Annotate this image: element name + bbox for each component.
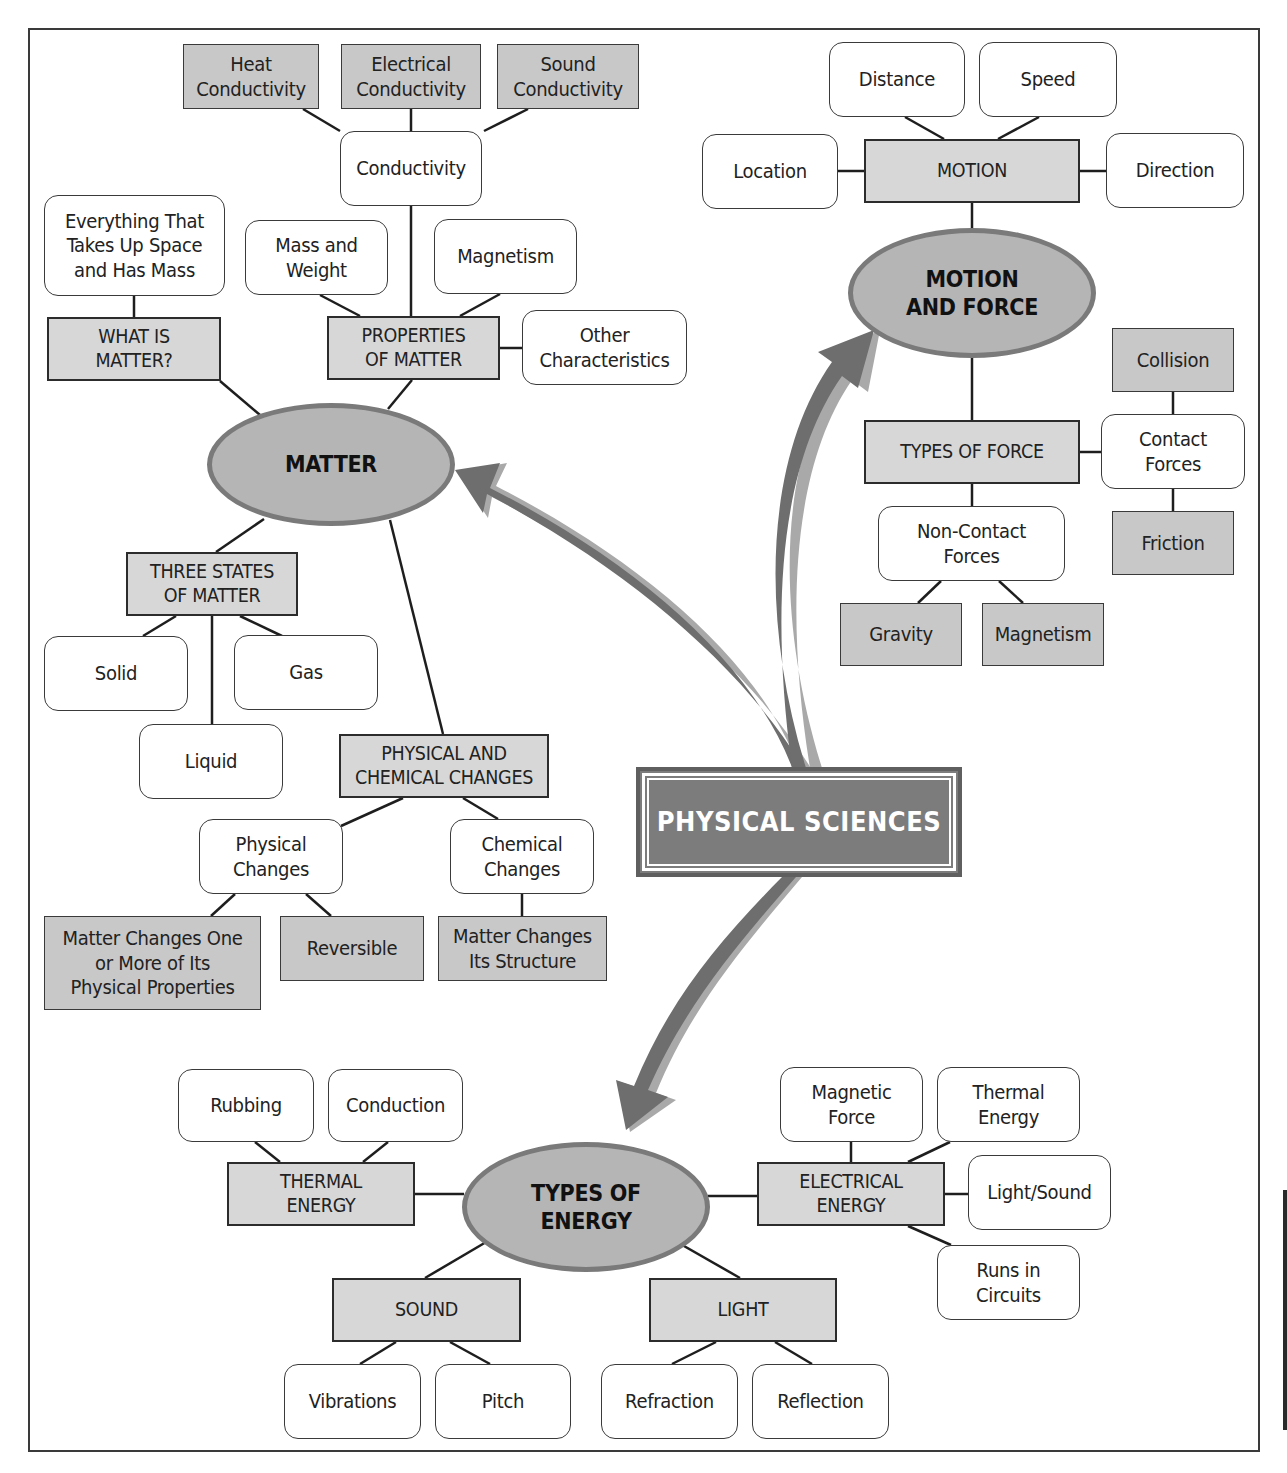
node-rubbing: Rubbing — [178, 1069, 314, 1142]
topic-types-of-energy: TYPES OF ENERGY — [462, 1142, 710, 1272]
connector-line — [775, 1342, 812, 1364]
node-physical-changes: Physical Changes — [199, 819, 343, 894]
connector-line — [303, 109, 340, 131]
node-light-sound: Light/Sound — [968, 1155, 1111, 1230]
connector-line — [999, 581, 1023, 603]
connector-line — [905, 117, 944, 139]
connector-line — [240, 616, 282, 636]
node-vibrations: Vibrations — [284, 1364, 421, 1439]
node-speed: Speed — [979, 42, 1117, 117]
category-sound: SOUND — [332, 1278, 521, 1342]
connector-line — [463, 798, 498, 819]
arrow-to-matter — [458, 463, 812, 770]
node-distance: Distance — [829, 42, 965, 117]
arrow-to-motion-force — [790, 330, 880, 768]
node-gas: Gas — [234, 635, 378, 710]
connector-line — [484, 109, 528, 131]
node-everything-that-takes-up-space: Everything That Takes Up Space and Has M… — [44, 195, 225, 296]
node-heat-conductivity: Heat Conductivity — [183, 44, 319, 109]
category-light: LIGHT — [649, 1278, 837, 1342]
node-chemical-changes: Chemical Changes — [450, 819, 594, 894]
node-location: Location — [702, 134, 838, 209]
category-motion: MOTION — [864, 139, 1080, 203]
node-magnetic-force: Magnetic Force — [780, 1067, 923, 1142]
connector-line — [143, 616, 176, 636]
connector-line — [908, 1142, 950, 1162]
connector-line — [216, 519, 264, 552]
connector-line — [306, 894, 331, 916]
node-runs-in-circuits: Runs in Circuits — [937, 1245, 1080, 1320]
node-refraction: Refraction — [601, 1364, 738, 1439]
node-friction: Friction — [1112, 511, 1234, 575]
node-reversible: Reversible — [280, 916, 424, 981]
connector-line — [450, 1342, 490, 1364]
connector-line — [255, 1142, 280, 1162]
node-sound-conductivity: Sound Conductivity — [497, 44, 639, 109]
node-electrical-conductivity: Electrical Conductivity — [341, 44, 481, 109]
connector-line — [998, 117, 1039, 139]
category-properties-of-matter: PROPERTIES OF MATTER — [327, 316, 500, 380]
node-conductivity: Conductivity — [340, 131, 482, 206]
category-electrical-energy: ELECTRICAL ENERGY — [757, 1162, 945, 1226]
node-collision: Collision — [1112, 328, 1234, 392]
category-physical-and-chemical-changes: PHYSICAL AND CHEMICAL CHANGES — [339, 734, 549, 798]
connector-line — [390, 520, 443, 734]
node-other-characteristics: Other Characteristics — [522, 310, 687, 385]
category-types-of-force: TYPES OF FORCE — [864, 420, 1080, 484]
node-liquid: Liquid — [139, 724, 283, 799]
node-magnetism-force: Magnetism — [982, 603, 1104, 666]
connector-line — [918, 581, 941, 603]
node-gravity: Gravity — [840, 603, 962, 666]
connector-line — [360, 1342, 396, 1364]
node-conduction: Conduction — [328, 1069, 463, 1142]
arrow-layer — [455, 330, 880, 1132]
connector-line — [425, 1238, 493, 1278]
topic-matter: MATTER — [207, 403, 455, 526]
node-mass-and-weight: Mass and Weight — [245, 220, 388, 295]
connector-line — [388, 380, 412, 409]
node-pitch: Pitch — [435, 1364, 571, 1439]
connector-line — [460, 294, 500, 316]
connector-line — [220, 381, 260, 415]
connector-line — [320, 295, 360, 316]
node-thermal-energy: Thermal Energy — [937, 1067, 1080, 1142]
connector-line — [672, 1342, 716, 1364]
arrow-to-matter-body — [455, 463, 805, 770]
connector-line — [363, 1142, 388, 1162]
node-magnetism-property: Magnetism — [434, 219, 577, 294]
node-reflection: Reflection — [752, 1364, 889, 1439]
concept-map: PHYSICAL SCIENCES MATTER MOTION AND FORC… — [0, 0, 1287, 1473]
root-node-physical-sciences: PHYSICAL SCIENCES — [636, 767, 962, 877]
category-what-is-matter: WHAT IS MATTER? — [47, 317, 221, 381]
node-matter-changes-physical-properties: Matter Changes One or More of Its Physic… — [44, 916, 261, 1010]
connector-line — [341, 798, 403, 826]
category-three-states-of-matter: THREE STATES OF MATTER — [126, 552, 298, 616]
topic-motion-and-force: MOTION AND FORCE — [848, 228, 1096, 358]
node-contact-forces: Contact Forces — [1101, 414, 1245, 489]
node-solid: Solid — [44, 636, 188, 711]
connector-line — [211, 894, 235, 916]
connector-line — [908, 1226, 951, 1245]
node-direction: Direction — [1106, 133, 1244, 208]
node-matter-changes-structure: Matter Changes Its Structure — [438, 916, 607, 981]
node-non-contact-forces: Non-Contact Forces — [878, 506, 1065, 581]
category-thermal-energy: THERMAL ENERGY — [227, 1162, 415, 1226]
